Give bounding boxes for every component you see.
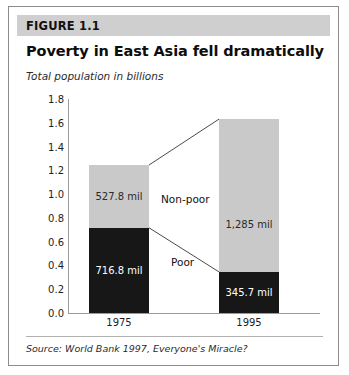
bar-value-1975-poor: 716.8 mil	[89, 265, 149, 276]
y-tick-label: 0.6	[18, 236, 64, 247]
bar-value-1995-nonpoor: 1,285 mil	[219, 219, 279, 230]
y-tick-label: 0.8	[18, 212, 64, 223]
plot-area: 1.8 1.6 1.4 1.2 1.0 0.8 0.6 0.4 0.2 0.0 …	[9, 7, 340, 367]
y-tick-label: 1.8	[18, 94, 64, 105]
bar-value-1995-poor: 345.7 mil	[219, 287, 279, 298]
y-tick-label: 0.2	[18, 284, 64, 295]
bar-value-1975-nonpoor: 527.8 mil	[89, 191, 149, 202]
y-tick-label: 0.0	[18, 308, 64, 319]
series-label-nonpoor: Non-poor	[161, 193, 210, 205]
source-note: Source: World Bank 1997, Everyone's Mira…	[26, 343, 248, 354]
y-tick-label: 1.2	[18, 165, 64, 176]
x-tick-label-1975: 1975	[79, 317, 159, 328]
y-tick-label: 0.4	[18, 260, 64, 271]
y-tick-label: 1.4	[18, 141, 64, 152]
source-publication-title: Everyone's Miracle?	[153, 343, 248, 354]
source-divider	[26, 336, 323, 337]
figure-card: FIGURE 1.1 Poverty in East Asia fell dra…	[8, 6, 339, 366]
bar-1995-nonpoor: 1,285 mil	[219, 119, 279, 272]
bar-1975-nonpoor: 527.8 mil	[89, 165, 149, 228]
source-prefix: Source: World Bank 1997,	[26, 343, 153, 354]
bar-1995-poor: 345.7 mil	[219, 272, 279, 313]
series-label-poor: Poor	[171, 256, 194, 268]
y-tick-label: 1.6	[18, 117, 64, 128]
bar-1975-poor: 716.8 mil	[89, 228, 149, 313]
y-axis-ticks: 1.8 1.6 1.4 1.2 1.0 0.8 0.6 0.4 0.2 0.0	[14, 7, 64, 367]
x-axis-line	[68, 313, 320, 314]
y-tick-label: 1.0	[18, 189, 64, 200]
y-axis-line	[68, 99, 69, 313]
x-tick-label-1995: 1995	[209, 317, 289, 328]
